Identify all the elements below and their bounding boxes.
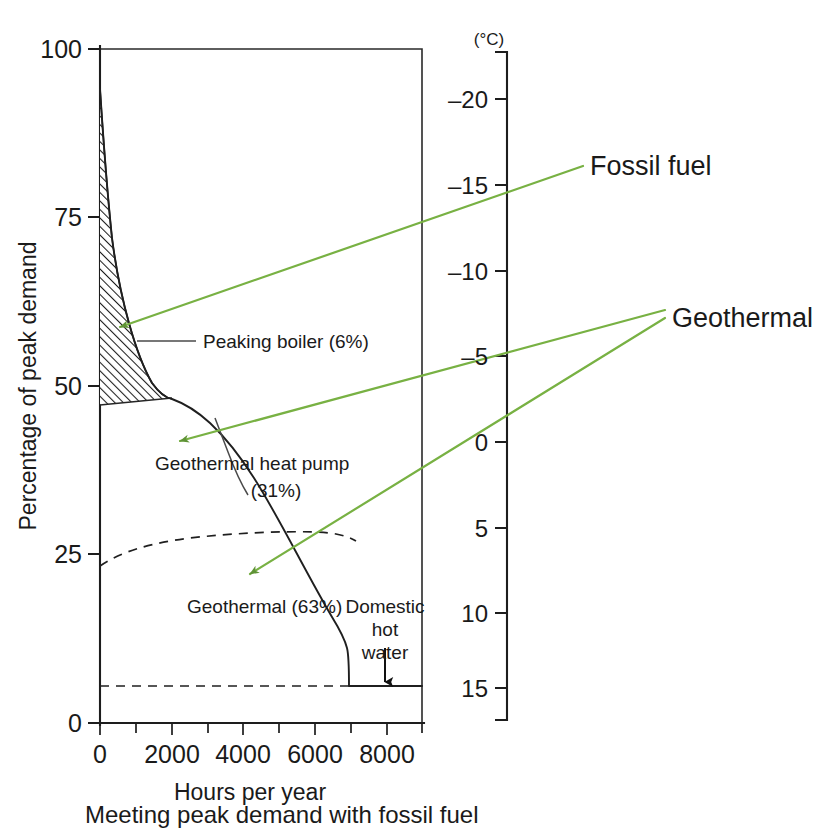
annotation-geothermal-share: Geothermal (63%) bbox=[187, 596, 342, 617]
annotation-heat-pump: Geothermal heat pump bbox=[155, 453, 349, 474]
annotation-peaking-boiler: Peaking boiler (6%) bbox=[203, 331, 369, 352]
annotation-dhw-line1: Domestic bbox=[345, 596, 424, 617]
y-axis-left bbox=[88, 46, 100, 725]
x-tick-label: 8000 bbox=[359, 740, 415, 768]
y-tick-label: 75 bbox=[54, 203, 82, 231]
chart-svg: 100 75 50 25 0 0 2000 4000 6000 8000 –20… bbox=[0, 0, 813, 836]
y-tick-label: 100 bbox=[40, 35, 82, 63]
temp-tick-label: 0 bbox=[475, 429, 488, 456]
temp-tick-label: 10 bbox=[461, 600, 488, 627]
y-axis-right-tick-labels: –20 –15 –10 –5 0 5 10 15 bbox=[448, 86, 488, 702]
peaking-boiler-hatched-region bbox=[100, 89, 172, 405]
y-axis-right-temperature bbox=[495, 52, 507, 720]
temp-tick-label: –20 bbox=[448, 86, 488, 113]
annotation-dhw-line3: water bbox=[361, 642, 409, 663]
x-tick-label: 6000 bbox=[287, 740, 343, 768]
temp-tick-label: –15 bbox=[448, 172, 488, 199]
annotation-heat-pump-percent: (31%) bbox=[251, 480, 302, 501]
temp-tick-label: 5 bbox=[475, 515, 488, 542]
x-axis-tick-labels: 0 2000 4000 6000 8000 bbox=[93, 740, 415, 768]
y-tick-label: 0 bbox=[68, 709, 82, 737]
geothermal-base-callout-line bbox=[250, 318, 665, 574]
figure-caption: Meeting peak demand with fossil fuel bbox=[85, 801, 479, 828]
y-axis-left-tick-labels: 100 75 50 25 0 bbox=[40, 35, 82, 737]
fossil-fuel-callout-line bbox=[120, 166, 583, 327]
temp-tick-label: –10 bbox=[448, 258, 488, 285]
green-callout-lines bbox=[120, 166, 665, 574]
x-tick-label: 0 bbox=[93, 740, 107, 768]
figure-container: 100 75 50 25 0 0 2000 4000 6000 8000 –20… bbox=[0, 0, 813, 836]
heat-pump-capacity-dashed-curve bbox=[100, 532, 356, 566]
x-tick-label: 2000 bbox=[144, 740, 200, 768]
y-axis-title: Percentage of peak demand bbox=[15, 242, 41, 531]
temp-tick-label: –5 bbox=[461, 343, 488, 370]
x-axis-bottom bbox=[98, 723, 424, 735]
callout-fossil-fuel: Fossil fuel bbox=[590, 151, 712, 181]
x-tick-label: 4000 bbox=[215, 740, 271, 768]
annotation-dhw-line2: hot bbox=[372, 619, 399, 640]
y-tick-label: 50 bbox=[54, 372, 82, 400]
temp-tick-label: 15 bbox=[461, 675, 488, 702]
temperature-unit-label: (°C) bbox=[474, 30, 504, 49]
y-tick-label: 25 bbox=[54, 540, 82, 568]
callout-geothermal: Geothermal bbox=[672, 303, 813, 333]
